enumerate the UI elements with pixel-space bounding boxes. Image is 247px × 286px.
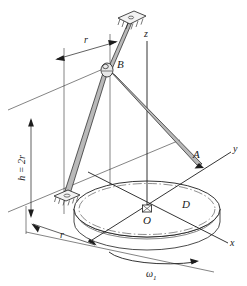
omega-symbol: ω [146,268,153,279]
rotation-indicator: ω1 [109,252,199,282]
disk-label-d: D [181,198,190,210]
mechanism-diagram-canvas: h = 2r r r D [0,0,247,286]
rotation-arc [109,252,196,264]
rod-b-to-a [111,72,202,165]
dimension-height-label: h = 2r [16,155,27,181]
arrowhead-height-up [28,118,34,127]
arrowhead-height-down [28,210,34,219]
axis-z-label: z [143,28,148,39]
mechanism-figure: h = 2r r r D [0,0,247,286]
arrowhead-r-top-right [108,40,118,46]
arrowhead-r-top-left [55,55,65,61]
axis-x-label: x [229,237,235,248]
omega-subscript: 1 [153,274,157,282]
axis-y-label: y [232,143,238,154]
lower-plate-face [54,190,80,201]
dimension-height: h = 2r [16,118,34,218]
omega-label: ω1 [146,268,157,282]
rotation-arrowhead [190,259,199,265]
rod-b-to-lower-support [64,71,108,194]
joint-b-label: B [117,58,124,70]
dimension-r-top-label: r [84,34,88,45]
point-a: A [192,148,204,169]
dimension-r-top: r [55,34,118,61]
linkage-rods [64,20,202,194]
center-bearing-o: O [143,205,152,226]
center-o-label: O [143,214,151,226]
point-a-label: A [192,148,200,160]
dimension-r-bottom-label: r [60,229,64,240]
upper-support-plate [118,11,146,29]
